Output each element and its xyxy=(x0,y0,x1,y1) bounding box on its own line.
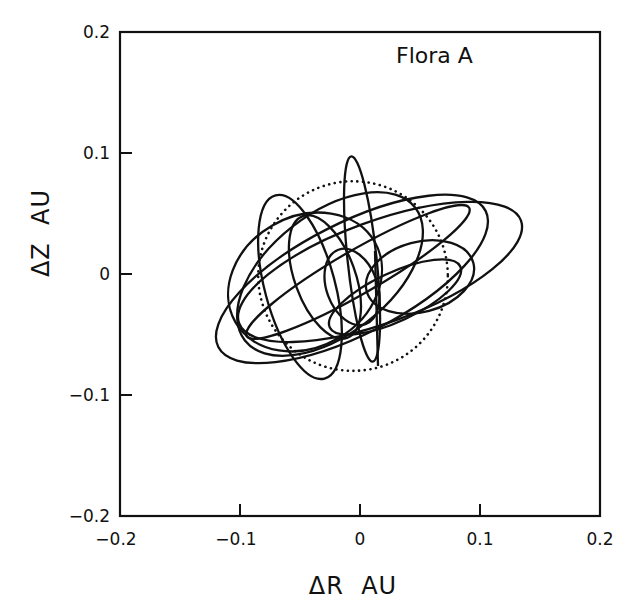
reference-circle-dotted xyxy=(258,181,448,371)
x-axis-title: ΔR AU xyxy=(309,572,397,600)
y-axis-title: ΔZ AU xyxy=(27,189,55,277)
y-tick-label: 0.2 xyxy=(83,22,110,42)
y-tick-label: −0.2 xyxy=(69,506,110,526)
x-tick-label: 0.2 xyxy=(586,529,613,549)
x-axis-ticks: −0.2−0.100.10.2 xyxy=(95,504,613,549)
y-tick-label: −0.1 xyxy=(69,385,110,405)
plot-frame xyxy=(120,32,600,516)
x-tick-label: 0 xyxy=(355,529,366,549)
orbit-loop-11 xyxy=(208,160,453,388)
y-tick-label: 0 xyxy=(99,264,110,284)
x-tick-label: −0.2 xyxy=(95,529,136,549)
y-tick-label: 0.1 xyxy=(83,143,110,163)
orbit-curves xyxy=(193,155,538,397)
flora-a-orbit-chart: −0.2−0.100.10.2 −0.2−0.100.10.2 Flora A … xyxy=(0,0,639,605)
panel-title: Flora A xyxy=(396,43,473,68)
x-tick-label: 0.1 xyxy=(466,529,493,549)
y-axis-ticks: −0.2−0.100.10.2 xyxy=(69,22,132,526)
x-tick-label: −0.1 xyxy=(215,529,256,549)
